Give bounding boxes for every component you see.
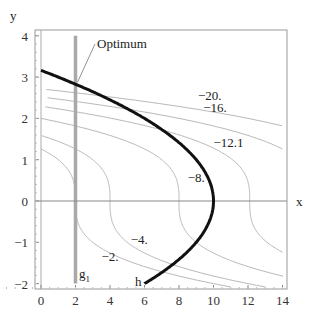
contour-chart: 02468101214−2−101234 −2.−4.−8.−12.1−16.−… — [0, 0, 315, 322]
contour-label: −8. — [188, 170, 205, 185]
x-tick-label: 0 — [38, 293, 45, 308]
x-tick-label: 12 — [242, 293, 255, 308]
y-tick-label: 2 — [22, 111, 29, 126]
x-tick-label: 4 — [107, 293, 114, 308]
y-tick-label: −2 — [14, 277, 28, 292]
contour-line — [41, 118, 283, 276]
contour-labels: −2.−4.−8.−12.1−16.−20. — [101, 88, 243, 264]
optimum-pointer — [78, 44, 96, 82]
contour-label: −20. — [198, 88, 222, 103]
x-tick-label: 6 — [141, 293, 148, 308]
y-tick-label: 0 — [22, 194, 29, 209]
y-tick-label: 4 — [22, 29, 29, 44]
contour-line — [47, 90, 283, 126]
contour-label: −12.1 — [214, 135, 244, 150]
y-tick-label: −1 — [14, 235, 28, 250]
contour-label: −2. — [101, 249, 118, 264]
g-subscript: 1 — [86, 274, 91, 284]
contour-label: −4. — [131, 232, 148, 247]
y-tick-label: 3 — [22, 70, 29, 85]
y-axis-label: y — [10, 8, 17, 23]
contour-lines — [41, 90, 283, 287]
g1-label: g1 — [79, 266, 90, 284]
optimum-label: Optimum — [97, 36, 147, 51]
contour-line — [48, 98, 283, 149]
x-axis-label: x — [296, 194, 303, 209]
contour-line — [45, 107, 282, 252]
y-tick-label: 1 — [22, 153, 29, 168]
x-tick-label: 2 — [72, 293, 79, 308]
x-tick-label: 8 — [176, 293, 183, 308]
h-label: h — [135, 274, 142, 289]
x-tick-label: 10 — [207, 293, 220, 308]
x-tick-label: 14 — [276, 293, 290, 308]
